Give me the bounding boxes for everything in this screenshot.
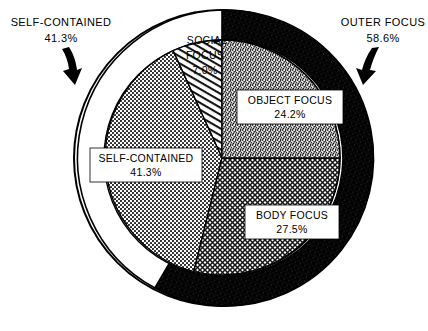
annotation-left-value: 41.3%: [44, 32, 77, 44]
social-focus-value: 7.0%: [192, 64, 217, 76]
object-focus-label: OBJECT FOCUS: [248, 94, 333, 106]
annotation-left-label: SELF-CONTAINED: [11, 16, 112, 28]
annotation-outer-focus: OUTER FOCUS 58.6%: [341, 16, 425, 85]
body-focus-label: BODY FOCUS: [256, 209, 328, 221]
annotation-self-contained: SELF-CONTAINED 41.3%: [11, 16, 112, 85]
object-focus-value: 24.2%: [274, 108, 305, 120]
annotation-right-arrow-icon: [356, 47, 379, 85]
wedge-label-object-focus: OBJECT FOCUS 24.2%: [237, 90, 343, 124]
self-contained-value: 41.3%: [130, 166, 161, 178]
annotation-left-arrow-icon: [62, 47, 82, 85]
annotation-right-label: OUTER FOCUS: [341, 16, 425, 28]
social-focus-label-line2: FOCUS: [186, 49, 224, 61]
annotation-right-value: 58.6%: [366, 32, 399, 44]
wedge-label-self-contained: SELF-CONTAINED 41.3%: [90, 148, 202, 182]
self-contained-label: SELF-CONTAINED: [98, 152, 193, 164]
body-focus-value: 27.5%: [276, 223, 307, 235]
wedge-label-body-focus: BODY FOCUS 27.5%: [245, 205, 339, 239]
pie-chart-figure: SOCIAL FOCUS 7.0% OBJECT FOCUS 24.2% BOD…: [0, 0, 428, 331]
social-focus-label-line1: SOCIAL: [187, 34, 227, 46]
pie-chart-svg: SOCIAL FOCUS 7.0% OBJECT FOCUS 24.2% BOD…: [0, 0, 428, 331]
